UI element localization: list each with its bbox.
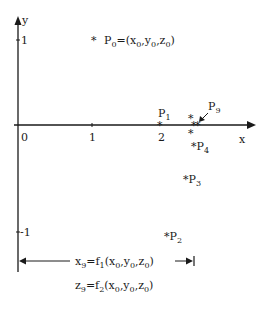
- point-p2: *P2: [164, 230, 182, 245]
- formula-x9: x9=f1(x0,y0,z0): [75, 255, 154, 270]
- y-tick-minus-1: -1: [20, 226, 31, 239]
- point-p1: * P1: [157, 107, 171, 132]
- svg-text:*P3: *P3: [183, 173, 201, 188]
- formula-z9: z9=f2(x0,y0,z0): [75, 279, 153, 294]
- svg-text:P0=(x0,y0,z0): P0=(x0,y0,z0): [104, 34, 175, 49]
- point-p4: *P4: [191, 140, 209, 155]
- p4-marker-icon: *: [188, 127, 194, 140]
- y-axis-arrowhead-icon: [15, 16, 22, 25]
- p0-marker-icon: *: [91, 34, 97, 47]
- y-tick-1: 1: [21, 34, 28, 47]
- svg-text:P1: P1: [158, 107, 171, 122]
- p1-marker-icon: *: [157, 119, 163, 132]
- svg-text:*P4: *P4: [191, 140, 209, 155]
- point-cluster: * * * *: [188, 112, 201, 140]
- point-p3: *P3: [183, 173, 201, 188]
- x-axis-label: x: [239, 133, 246, 146]
- point-p0: * P0=(x0,y0,z0): [91, 34, 175, 49]
- point-p9: P9: [199, 100, 221, 122]
- x-tick-0: 0: [21, 131, 28, 144]
- x-tick-2: 2: [158, 131, 165, 144]
- svg-text:*P2: *P2: [164, 230, 182, 245]
- left-arrowhead-icon: [19, 258, 26, 265]
- x-tick-1: 1: [89, 131, 96, 144]
- svg-text:P9: P9: [208, 100, 221, 115]
- y-axis-label: y: [21, 14, 29, 27]
- right-arrowhead-icon: [186, 258, 193, 265]
- x-axis-arrowhead-icon: [247, 121, 256, 129]
- x-axis: [14, 121, 256, 129]
- diagram-canvas: y 1 -1 0 1 2 x * P0=(x0,y0,z0) * P1 * * …: [0, 0, 268, 310]
